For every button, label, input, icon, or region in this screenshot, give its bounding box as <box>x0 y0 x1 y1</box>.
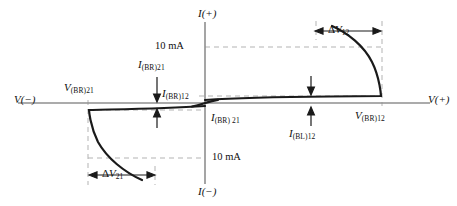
annotation-delta-v-21-symbol: V <box>109 167 116 179</box>
annotation-i-br-21-lower-subscript: (BR) 21 <box>215 116 240 125</box>
axis-label-current-positive: I(+) <box>198 8 216 19</box>
iv-characteristic-figure: I(+) I(−) V(−) V(+) 10 mA 10 mA I(BR)21 … <box>0 0 457 206</box>
annotation-v-br-21: V(BR)21 <box>64 82 94 94</box>
arrow-ibr21-down <box>154 77 161 102</box>
curve-canvas <box>0 0 457 206</box>
annotation-delta-v-21-subscript: 21 <box>116 172 124 181</box>
annotation-delta-v-21: ΔV21 <box>102 168 123 180</box>
arrow-ibr12-down <box>308 76 315 95</box>
annotation-v-br-21-symbol: V <box>64 81 71 93</box>
annotation-i-br-12-subscript: (BR)12 <box>166 92 189 101</box>
annotation-v-br-12: V(BR)12 <box>355 110 385 122</box>
tick-label-lower-10ma: 10 mA <box>212 152 241 163</box>
annotation-v-br-12-subscript: (BR)12 <box>362 114 385 123</box>
axis-label-voltage-negative: V(−) <box>14 94 35 105</box>
axis-label-voltage-positive: V(+) <box>428 94 449 105</box>
annotation-delta-v-12: ΔV12 <box>328 24 349 36</box>
arrow-ibr21-up <box>154 109 161 128</box>
arrow-ibl12-up <box>308 107 315 126</box>
tick-label-upper-10ma: 10 mA <box>155 41 184 52</box>
curve-positive-branch <box>205 26 381 100</box>
annotation-i-br-21-upper: I(BR)21 <box>138 59 165 71</box>
annotation-v-br-12-symbol: V <box>355 109 362 121</box>
annotation-i-bl-12-subscript: (BL)12 <box>293 132 316 141</box>
annotation-i-bl-12: I(BL)12 <box>289 128 315 140</box>
annotation-i-br-21-upper-subscript: (BR)21 <box>142 63 165 72</box>
axis-label-current-negative: I(−) <box>198 186 216 197</box>
annotation-delta-v-12-symbol: V <box>335 23 342 35</box>
annotation-i-br-21-lower: I(BR) 21 <box>211 112 240 124</box>
annotation-v-br-21-subscript: (BR)21 <box>71 86 94 95</box>
annotation-i-br-12: I(BR)12 <box>162 88 189 100</box>
annotation-delta-v-12-subscript: 12 <box>342 28 350 37</box>
